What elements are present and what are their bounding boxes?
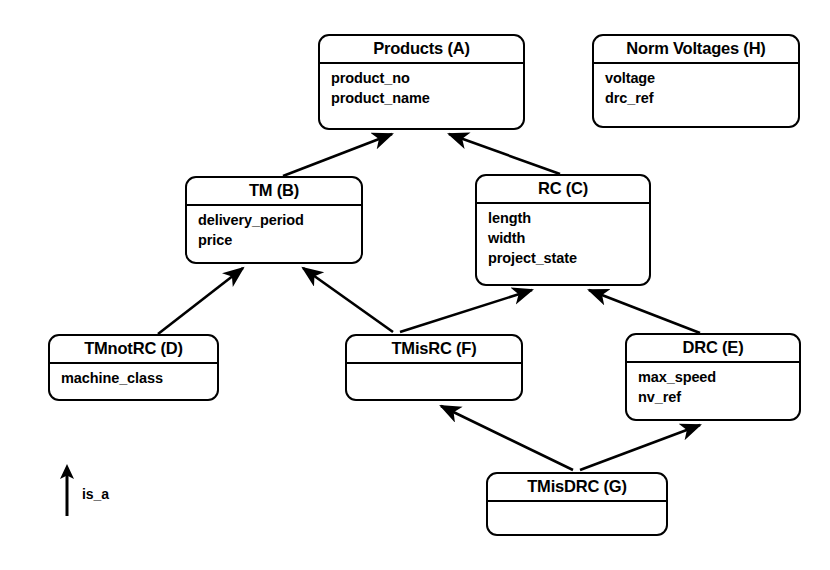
edge-tmnotrc-to-tm <box>158 268 243 334</box>
edge-tm-to-products <box>283 134 392 176</box>
attribute-row: product_no <box>331 68 523 88</box>
edge-tmisrc-to-rc <box>400 290 532 332</box>
entity-attributes-drc-e: max_speed nv_ref <box>627 363 799 419</box>
entity-attributes-tmnotrc-d: machine_class <box>50 364 217 399</box>
attribute-row: length <box>488 208 649 228</box>
entity-title-tmnotrc-d: TMnotRC (D) <box>50 336 217 364</box>
entity-attributes-tmisdrc-g <box>488 502 666 534</box>
entity-title-tmisrc-f: TMisRC (F) <box>347 336 521 364</box>
attribute-row: width <box>488 228 649 248</box>
entity-box-products-a[interactable]: Products (A) product_no product_name <box>318 34 525 130</box>
entity-attributes-norm-voltages-h: voltage drc_ref <box>594 64 798 126</box>
attribute-row: machine_class <box>61 368 217 388</box>
attribute-row: project_state <box>488 248 649 268</box>
entity-attributes-rc-c: length width project_state <box>477 204 649 284</box>
attribute-row: price <box>198 230 361 250</box>
entity-box-tmisrc-f[interactable]: TMisRC (F) <box>345 334 523 401</box>
entity-title-drc-e: DRC (E) <box>627 335 799 363</box>
entity-title-products-a: Products (A) <box>320 36 523 64</box>
attribute-row: delivery_period <box>198 210 361 230</box>
edge-rc-to-products <box>449 134 560 174</box>
attribute-row: max_speed <box>638 367 799 387</box>
edge-drc-to-rc <box>589 290 700 333</box>
entity-title-tmisdrc-g: TMisDRC (G) <box>488 474 666 502</box>
entity-box-tmisdrc-g[interactable]: TMisDRC (G) <box>486 472 668 536</box>
edge-tmisdrc-to-drc <box>580 425 700 470</box>
entity-attributes-products-a: product_no product_name <box>320 64 523 128</box>
entity-box-rc-c[interactable]: RC (C) length width project_state <box>475 174 651 286</box>
entity-title-rc-c: RC (C) <box>477 176 649 204</box>
diagram-canvas: Products (A) product_no product_name Nor… <box>0 0 830 570</box>
entity-box-tm-b[interactable]: TM (B) delivery_period price <box>185 176 363 264</box>
entity-title-norm-voltages-h: Norm Voltages (H) <box>594 36 798 64</box>
entity-box-tmnotrc-d[interactable]: TMnotRC (D) machine_class <box>48 334 219 401</box>
entity-box-norm-voltages-h[interactable]: Norm Voltages (H) voltage drc_ref <box>592 34 800 128</box>
attribute-row: product_name <box>331 88 523 108</box>
entity-box-drc-e[interactable]: DRC (E) max_speed nv_ref <box>625 333 801 421</box>
entity-title-tm-b: TM (B) <box>187 178 361 206</box>
attribute-row: drc_ref <box>605 88 798 108</box>
edge-tmisdrc-to-tmisrc <box>441 406 573 470</box>
entity-attributes-tmisrc-f <box>347 364 521 399</box>
legend: is_a <box>58 462 178 524</box>
edge-tmisrc-to-tm <box>303 268 393 332</box>
entity-attributes-tm-b: delivery_period price <box>187 206 361 262</box>
attribute-row: voltage <box>605 68 798 88</box>
attribute-row: nv_ref <box>638 387 799 407</box>
legend-label: is_a <box>82 486 109 502</box>
